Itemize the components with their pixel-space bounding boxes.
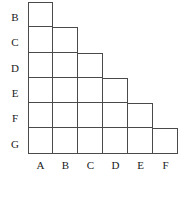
col-label-c: C	[78, 160, 103, 171]
cell-e-c	[78, 78, 103, 103]
cell-g-d	[103, 128, 128, 153]
grid-row-c	[28, 27, 178, 52]
cell-g-a	[28, 128, 53, 153]
row-label-e: E	[6, 88, 24, 99]
cell-f-a	[28, 103, 53, 128]
cell-d-a	[28, 53, 53, 78]
row-label-f: F	[6, 113, 24, 124]
grid-row-b	[28, 2, 178, 27]
cell-d-c	[78, 53, 103, 78]
col-label-d: D	[103, 160, 128, 171]
cell-f-e	[128, 103, 153, 128]
row-label-g: G	[6, 139, 24, 150]
cell-g-b	[53, 128, 78, 153]
col-label-a: A	[28, 160, 53, 171]
staircase-grid-figure: B C D E F G	[0, 0, 194, 197]
row-label-b: B	[6, 12, 24, 23]
grid-row-f	[28, 103, 178, 128]
cell-b-a	[28, 2, 53, 27]
row-label-d: D	[6, 63, 24, 74]
col-label-f: F	[153, 160, 178, 171]
cell-e-b	[53, 78, 78, 103]
grid-row-d	[28, 53, 178, 78]
row-label-c: C	[6, 37, 24, 48]
col-label-e: E	[128, 160, 153, 171]
grid-row-e	[28, 78, 178, 103]
cell-d-b	[53, 53, 78, 78]
grid	[28, 2, 178, 154]
cell-e-a	[28, 78, 53, 103]
cell-e-d	[103, 78, 128, 103]
cell-c-a	[28, 27, 53, 52]
col-label-b: B	[53, 160, 78, 171]
grid-row-g	[28, 128, 178, 153]
cell-g-f	[153, 128, 178, 153]
cell-f-d	[103, 103, 128, 128]
cell-c-b	[53, 27, 78, 52]
cell-f-c	[78, 103, 103, 128]
cell-g-e	[128, 128, 153, 153]
cell-g-c	[78, 128, 103, 153]
cell-f-b	[53, 103, 78, 128]
